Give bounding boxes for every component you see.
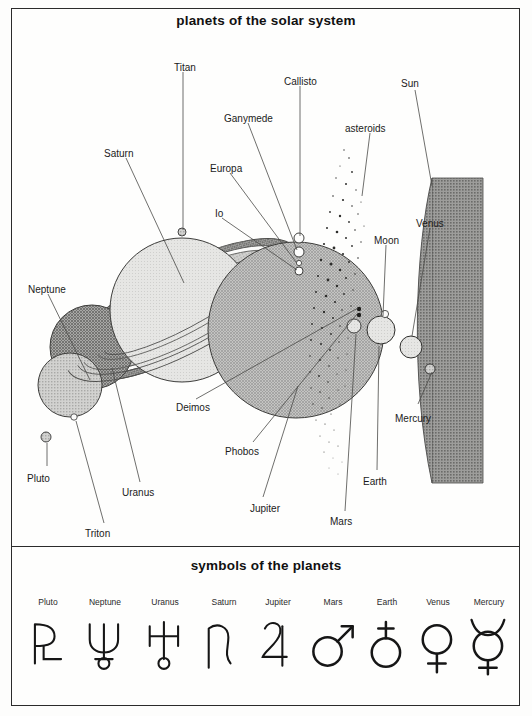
label-moon: Moon xyxy=(374,236,399,246)
neptune-symbol xyxy=(81,615,129,681)
label-earth: Earth xyxy=(363,477,387,487)
page-title-top: planets of the solar system xyxy=(0,13,532,28)
label-mercury: Mercury xyxy=(395,414,431,424)
label-io: Io xyxy=(215,209,223,219)
label-asteroids: asteroids xyxy=(345,124,386,134)
saturn-symbol xyxy=(200,615,248,681)
mercury-symbol xyxy=(465,615,513,681)
pluto-symbol xyxy=(24,615,72,681)
mars-symbol xyxy=(309,615,357,681)
label-europa: Europa xyxy=(210,164,242,174)
label-callisto: Callisto xyxy=(284,77,317,87)
label-ganymede: Ganymede xyxy=(224,114,273,124)
uranus-symbol xyxy=(141,615,189,681)
label-saturn: Saturn xyxy=(104,149,133,159)
label-triton: Triton xyxy=(85,529,110,539)
label-neptune: Neptune xyxy=(28,285,66,295)
venus-symbol xyxy=(414,615,462,681)
label-venus: Venus xyxy=(416,219,444,229)
label-jupiter: Jupiter xyxy=(250,504,280,514)
label-pluto: Pluto xyxy=(27,474,50,484)
jupiter-symbol xyxy=(254,615,302,681)
section-divider xyxy=(12,546,519,547)
label-mars: Mars xyxy=(330,517,352,527)
page-title-bottom: symbols of the planets xyxy=(0,558,532,573)
solar-system-plate: planets of the solar system xyxy=(0,0,532,716)
label-uranus: Uranus xyxy=(122,488,154,498)
label-phobos: Phobos xyxy=(225,447,259,457)
label-deimos: Deimos xyxy=(176,403,210,413)
symbol-label-mercury: Mercury xyxy=(449,597,529,607)
earth-symbol xyxy=(363,615,411,681)
label-titan: Titan xyxy=(174,63,196,73)
label-sun: Sun xyxy=(401,79,419,89)
